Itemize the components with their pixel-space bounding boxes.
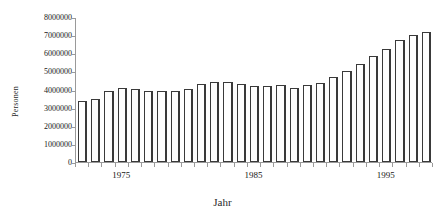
y-axis-tick-label: 4000000 bbox=[24, 87, 72, 95]
x-axis-tick-mark bbox=[207, 163, 208, 167]
x-axis-tick-mark bbox=[260, 163, 261, 167]
bar bbox=[276, 85, 285, 162]
x-axis-tick-mark bbox=[419, 163, 420, 167]
x-axis-tick-label: 1985 bbox=[245, 170, 263, 181]
bar bbox=[342, 71, 351, 162]
bar bbox=[237, 84, 246, 162]
bar-series bbox=[76, 18, 432, 162]
y-axis-tick-labels: 0100000020000003000000400000050000006000… bbox=[24, 14, 72, 164]
y-axis-tick-label: 5000000 bbox=[24, 68, 72, 76]
bar bbox=[223, 82, 232, 162]
x-axis-title: Jahr bbox=[0, 196, 445, 208]
x-axis-tick-mark bbox=[406, 163, 407, 167]
bar bbox=[91, 99, 100, 162]
y-axis-title: Personen bbox=[6, 56, 24, 146]
x-axis-tick-label: 1975 bbox=[112, 170, 130, 181]
bar bbox=[382, 49, 391, 162]
bar bbox=[409, 35, 418, 162]
y-axis-tick-label: 0 bbox=[24, 159, 72, 167]
y-axis-tick-label: 8000000 bbox=[24, 14, 72, 22]
bar-chart: Personen 0100000020000003000000400000050… bbox=[0, 0, 445, 224]
x-axis-tick-mark bbox=[287, 163, 288, 167]
y-axis-tick-label: 7000000 bbox=[24, 32, 72, 40]
x-axis-tick-mark bbox=[234, 163, 235, 167]
x-axis-tick-mark bbox=[154, 163, 155, 167]
bar bbox=[250, 86, 259, 162]
bar bbox=[104, 91, 113, 162]
bar bbox=[263, 86, 272, 162]
bar bbox=[197, 84, 206, 162]
x-axis-tick-label: 1995 bbox=[377, 170, 395, 181]
bar bbox=[184, 89, 193, 162]
x-axis-tick-mark bbox=[379, 163, 380, 167]
bar bbox=[210, 82, 219, 162]
x-axis-tick-mark bbox=[168, 163, 169, 167]
y-axis-tick-label: 1000000 bbox=[24, 141, 72, 149]
x-axis-tick-mark bbox=[181, 163, 182, 167]
x-axis-tick-mark bbox=[392, 163, 393, 167]
x-axis-tick-mark bbox=[101, 163, 102, 167]
x-axis-tick-mark bbox=[339, 163, 340, 167]
bar bbox=[316, 83, 325, 162]
x-axis-tick-mark bbox=[141, 163, 142, 167]
bar bbox=[329, 77, 338, 163]
bar bbox=[118, 88, 127, 162]
y-axis-title-text: Personen bbox=[11, 86, 20, 117]
bar bbox=[303, 85, 312, 162]
x-axis-tick-mark bbox=[88, 163, 89, 167]
bar bbox=[356, 64, 365, 162]
x-axis-tick-mark bbox=[273, 163, 274, 167]
x-axis-tick-mark bbox=[353, 163, 354, 167]
x-axis-tick-mark bbox=[115, 163, 116, 167]
bar bbox=[78, 101, 87, 162]
plot-area bbox=[75, 18, 432, 163]
y-axis-tick-label: 2000000 bbox=[24, 123, 72, 131]
bar bbox=[131, 89, 140, 162]
x-axis-tick-mark bbox=[75, 163, 76, 167]
x-axis-tick-mark bbox=[432, 163, 433, 167]
bar bbox=[171, 91, 180, 162]
x-axis-tick-marks bbox=[75, 163, 432, 169]
bar bbox=[290, 88, 299, 162]
y-axis-tick-label: 6000000 bbox=[24, 50, 72, 58]
x-axis-tick-mark bbox=[366, 163, 367, 167]
bar bbox=[144, 91, 153, 162]
x-axis-tick-mark bbox=[128, 163, 129, 167]
x-axis-tick-mark bbox=[326, 163, 327, 167]
x-axis-tick-mark bbox=[194, 163, 195, 167]
x-axis-tick-mark bbox=[313, 163, 314, 167]
x-axis-tick-labels: 197519851995 bbox=[75, 170, 432, 184]
bar bbox=[395, 40, 404, 162]
x-axis-tick-mark bbox=[300, 163, 301, 167]
bar bbox=[369, 56, 378, 162]
x-axis-tick-mark bbox=[220, 163, 221, 167]
x-axis-tick-mark bbox=[247, 163, 248, 167]
y-axis-tick-label: 3000000 bbox=[24, 105, 72, 113]
bar bbox=[157, 91, 166, 162]
bar bbox=[422, 32, 431, 162]
